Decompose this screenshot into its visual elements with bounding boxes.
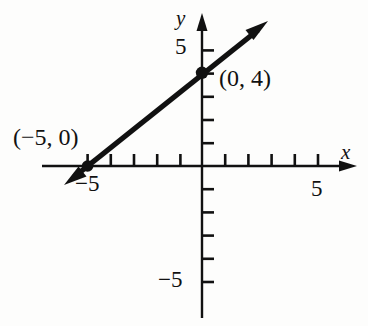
x-tick-label-minus-5: −5	[75, 172, 99, 195]
plotted-line	[64, 21, 268, 185]
x-axis-label: x	[341, 142, 350, 163]
data-point-0-4	[196, 67, 208, 79]
y-tick-label-5: 5	[175, 35, 187, 58]
point-label-neg5-0: (−5, 0)	[13, 125, 79, 149]
y-axis-label: y	[176, 8, 185, 29]
graph-figure: y x 5 −5 5 −5 (0, 4) (−5, 0)	[0, 0, 368, 326]
x-tick-label-5: 5	[311, 177, 323, 200]
point-label-0-4: (0, 4)	[219, 66, 271, 90]
y-axis-arrowhead	[197, 13, 208, 31]
line-segment	[74, 30, 258, 177]
y-tick-label-minus-5: −5	[158, 268, 182, 291]
